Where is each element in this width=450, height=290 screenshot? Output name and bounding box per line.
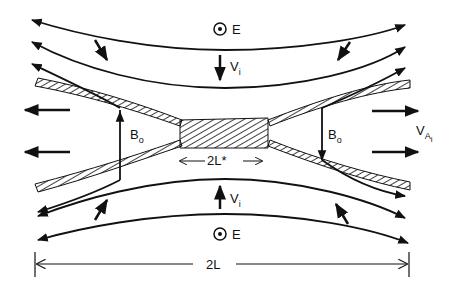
- field-line-bot-3-left: [38, 214, 225, 240]
- field-line-top-1-right: [225, 25, 405, 50]
- lower-right-shock: [268, 140, 410, 190]
- bo-label-right: Bo: [328, 128, 342, 141]
- field-line-top-1: [32, 20, 225, 50]
- e-label-bottom: E: [232, 228, 241, 241]
- reconnection-diagram: E Vi Bo Bo VAi 2L* Vi E 2L: [0, 0, 450, 290]
- shock-bands: [35, 78, 410, 192]
- vi-label-top: Vi: [230, 60, 241, 73]
- field-line-bot-3-right: [225, 214, 408, 243]
- upper-right-shock: [268, 80, 410, 126]
- diffusion-region: [180, 118, 268, 148]
- field-line-bot-2-right: [225, 179, 405, 218]
- inflow-arrow-bottom-left: [95, 200, 107, 220]
- vi-label-bottom: Vi: [230, 192, 241, 205]
- inflow-arrow-top-right: [338, 42, 350, 60]
- inflow-arrow-top-left: [95, 40, 107, 60]
- diagram-canvas: [0, 0, 450, 290]
- bo-label-left: Bo: [130, 128, 144, 141]
- upper-left-shock: [35, 78, 182, 126]
- outer-length-label: 2L: [206, 258, 220, 271]
- inner-length-label: 2L*: [207, 154, 227, 167]
- outer-length-dimension: [35, 252, 409, 277]
- outflow-velocity-label: VAi: [416, 124, 432, 137]
- field-line-bot-2-left: [38, 179, 225, 216]
- e-label-top: E: [232, 23, 241, 36]
- inflow-arrow-bottom-right: [336, 204, 348, 224]
